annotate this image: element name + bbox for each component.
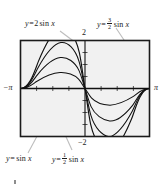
label-sin: sin xyxy=(15,154,26,163)
curve-label-two-sin: y=2sin x xyxy=(25,20,55,28)
label-sin: sin xyxy=(113,20,124,29)
label-sin: sin xyxy=(38,19,49,28)
label-x: x xyxy=(28,154,32,163)
curve-label-half-sin: y=12sin x xyxy=(52,152,84,166)
y-axis-label-bottom: −2 xyxy=(78,139,87,147)
fraction-one-half: 12 xyxy=(62,152,67,166)
x-axis-label-left: −π xyxy=(3,84,12,92)
label-x: x xyxy=(80,155,84,164)
sine-amplitude-figure: y=2sin x y=32sin x y=sin x y=12sin x 2 −… xyxy=(0,0,160,188)
label-x: x xyxy=(125,20,129,29)
x-axis-label-right: π xyxy=(154,84,158,92)
label-x: x xyxy=(51,19,55,28)
y-axis-label-top: 2 xyxy=(82,29,86,37)
scan-artifact-speck xyxy=(14,180,16,184)
label-equals: = xyxy=(101,20,107,29)
curve-label-three-halves-sin: y=32sin x xyxy=(97,17,129,31)
fraction-denominator: 2 xyxy=(107,23,112,30)
fraction-three-halves: 32 xyxy=(107,17,112,31)
curve-label-sin: y=sin x xyxy=(6,155,32,163)
fraction-denominator: 2 xyxy=(62,158,67,165)
label-sin: sin xyxy=(68,155,79,164)
label-equals: = xyxy=(56,155,62,164)
